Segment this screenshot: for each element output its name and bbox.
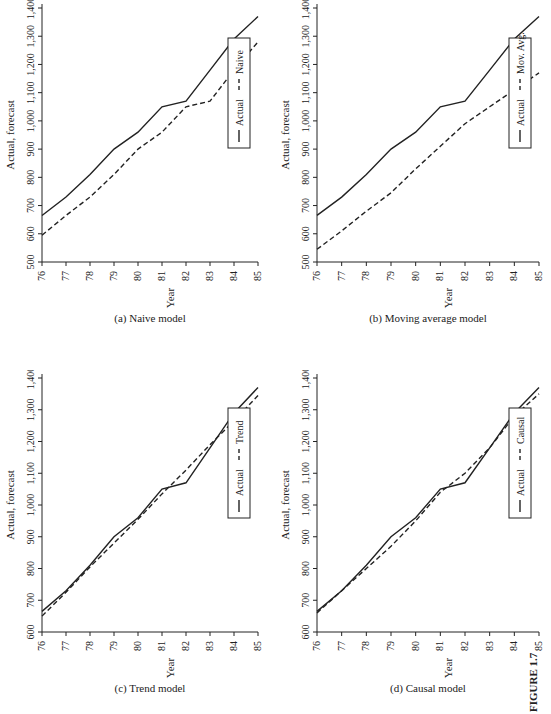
series-line-trend [42,395,258,616]
x-axis-label: Year [442,288,454,309]
y-tick-label: 1,300 [300,399,311,422]
legend-actual: Actual [515,99,526,126]
series-line-actual [317,388,539,612]
x-tick-label: 82 [180,641,191,651]
x-tick-label: 76 [311,271,322,281]
y-axis-label: Actual, forecast [279,470,291,540]
x-tick-label: 81 [156,271,167,281]
x-tick-label: 82 [459,271,470,281]
x-tick-label: 78 [360,641,371,651]
x-tick-label: 82 [180,271,191,281]
x-tick-label: 80 [410,641,421,651]
y-tick-label: 1,400 [300,0,311,19]
chart-b-svg: 5006007008009001,0001,1001,2001,3001,400… [275,0,551,345]
y-tick-label: 1,000 [300,494,311,517]
x-tick-label: 84 [228,641,239,651]
chart-title: (c) Trend model [115,682,186,695]
y-tick-label: 1,200 [300,430,311,453]
chart-title: (b) Moving average model [369,312,487,325]
y-tick-label: 500 [300,255,311,270]
y-tick-label: 500 [25,255,36,270]
x-tick-label: 84 [228,271,239,281]
series-line-actual [42,16,258,215]
x-tick-label: 83 [484,641,495,651]
legend-forecast: Naive [234,50,245,74]
x-tick-label: 80 [132,271,143,281]
y-tick-label: 600 [300,625,311,640]
y-tick-label: 700 [25,593,36,608]
y-axis-label: Actual, forecast [279,100,291,170]
y-tick-label: 700 [25,198,36,213]
x-tick-label: 76 [36,271,47,281]
chart-title: (d) Causal model [390,682,466,695]
chart-trend-model: 6007008009001,0001,1001,2001,3001,400Act… [0,370,270,714]
x-tick-label: 85 [252,641,263,651]
y-axis-label: Actual, forecast [4,470,16,540]
chart-naive-model: 5006007008009001,0001,1001,2001,3001,400… [0,0,270,349]
x-axis-label: Year [164,658,176,679]
x-tick-label: 76 [36,641,47,651]
x-tick-label: 83 [484,271,495,281]
x-tick-label: 85 [252,271,263,281]
x-tick-label: 80 [132,641,143,651]
y-tick-label: 900 [25,529,36,544]
x-tick-label: 79 [108,271,119,281]
x-tick-label: 77 [60,271,71,281]
legend-actual: Actual [234,469,245,496]
y-tick-label: 600 [25,226,36,241]
y-tick-label: 1,000 [25,110,36,133]
y-tick-label: 1,100 [300,462,311,485]
x-tick-label: 76 [311,641,322,651]
y-tick-label: 900 [25,142,36,157]
x-tick-label: 82 [459,641,470,651]
x-tick-label: 81 [434,641,445,651]
y-tick-label: 800 [300,561,311,576]
x-axis-label: Year [442,658,454,679]
chart-c-svg: 6007008009001,0001,1001,2001,3001,400Act… [0,370,270,710]
y-tick-label: 1,400 [25,0,36,19]
x-tick-label: 79 [385,641,396,651]
y-tick-label: 1,000 [300,110,311,133]
y-tick-label: 900 [300,142,311,157]
y-tick-label: 800 [25,170,36,185]
y-axis-label: Actual, forecast [4,100,16,170]
y-tick-label: 1,400 [25,370,36,389]
series-line-mov-avg- [317,73,539,249]
y-tick-label: 1,000 [25,494,36,517]
legend-actual: Actual [515,469,526,496]
chart-a-svg: 5006007008009001,0001,1001,2001,3001,400… [0,0,270,345]
x-tick-label: 81 [434,271,445,281]
y-tick-label: 1,300 [25,399,36,422]
x-tick-label: 85 [533,641,544,651]
legend-forecast: Trend [234,420,245,444]
y-tick-label: 1,200 [25,53,36,76]
x-tick-label: 78 [84,641,95,651]
y-tick-label: 900 [300,529,311,544]
x-axis-label: Year [164,288,176,309]
y-tick-label: 600 [25,625,36,640]
x-tick-label: 79 [385,271,396,281]
x-tick-label: 85 [533,271,544,281]
x-tick-label: 77 [336,271,347,281]
y-tick-label: 700 [300,593,311,608]
y-tick-label: 1,100 [300,81,311,104]
x-tick-label: 78 [360,271,371,281]
x-tick-label: 79 [108,641,119,651]
y-tick-label: 1,100 [25,81,36,104]
x-tick-label: 80 [410,271,421,281]
x-tick-label: 83 [204,271,215,281]
figure-label: FIGURE 1.7 [527,653,539,712]
legend-forecast: Causal [515,417,526,444]
x-tick-label: 78 [84,271,95,281]
legend-forecast: Mov. Avg. [515,32,526,74]
chart-d-svg: 6007008009001,0001,1001,2001,3001,400Act… [275,370,551,710]
x-tick-label: 77 [60,641,71,651]
y-tick-label: 1,200 [300,53,311,76]
y-tick-label: 1,200 [25,430,36,453]
legend-actual: Actual [234,99,245,126]
x-tick-label: 84 [508,271,519,281]
chart-title: (a) Naive model [114,312,185,325]
y-tick-label: 1,300 [25,25,36,48]
series-line-actual [42,388,258,612]
series-line-actual [317,16,539,215]
